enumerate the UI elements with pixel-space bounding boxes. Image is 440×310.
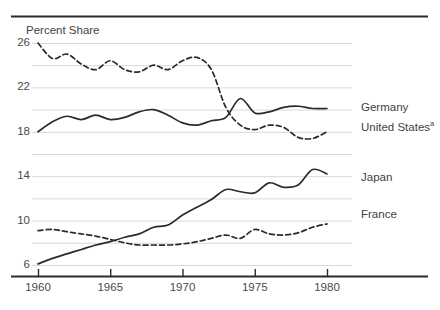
y-tick-label: 22 [8, 80, 30, 92]
x-tick-label: 1980 [307, 281, 347, 293]
legend-label-text: United States [361, 121, 430, 133]
chart-figure: Percent Share 26221814106 19601965197019… [0, 0, 440, 310]
legend-item-france: France [361, 208, 397, 220]
x-tick-label: 1975 [235, 281, 275, 293]
y-axis-title: Percent Share [26, 24, 100, 36]
legend-item-germany: Germany [361, 101, 408, 113]
y-tick-label: 14 [8, 169, 30, 181]
legend-label-text: Japan [361, 171, 392, 183]
legend-label-text: Germany [361, 101, 408, 113]
series-line-japan [38, 169, 327, 264]
x-tick-label: 1965 [90, 281, 130, 293]
legend-item-japan: Japan [361, 171, 392, 183]
series-group [38, 43, 327, 264]
x-tick-label: 1960 [18, 281, 58, 293]
legend-item-united-states: United Statesa [361, 121, 434, 133]
series-line-germany [38, 98, 327, 131]
gridline-group [32, 44, 352, 266]
line-chart-canvas [0, 0, 440, 310]
y-tick-label: 6 [8, 258, 30, 270]
series-line-france [38, 224, 327, 245]
x-tick-group [39, 269, 328, 276]
x-tick-label: 1970 [163, 281, 203, 293]
series-line-united-states [38, 43, 327, 139]
y-tick-label: 26 [8, 36, 30, 48]
y-tick-label: 18 [8, 125, 30, 137]
y-tick-label: 10 [8, 214, 30, 226]
legend-footnote-marker: a [430, 119, 434, 128]
legend-label-text: France [361, 208, 397, 220]
